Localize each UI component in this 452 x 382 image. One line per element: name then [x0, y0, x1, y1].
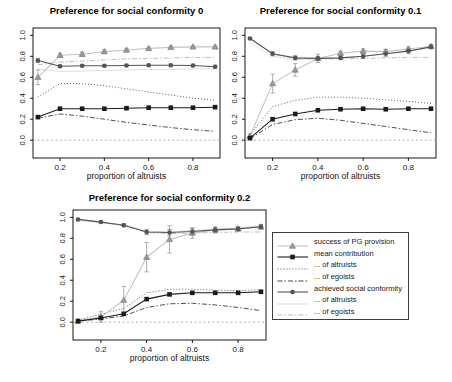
square-marker-icon: [276, 248, 310, 258]
svg-text:0.4: 0.4: [59, 275, 68, 285]
svg-text:0.0: 0.0: [231, 135, 240, 145]
legend-item-achieved-social-conformity: achieved social conformity: [276, 282, 406, 294]
gray-dashdot-line-icon: [276, 306, 310, 316]
svg-text:0.4: 0.4: [231, 93, 240, 103]
legend-label: success of PG provision: [314, 237, 394, 246]
legend-label: ... of altruists: [314, 260, 357, 269]
svg-text:0.8: 0.8: [19, 51, 28, 61]
legend-item-success-of-pg-provision: success of PG provision: [276, 236, 406, 248]
x-axis-label-conformity-0: proportion of altruists: [33, 171, 220, 181]
svg-text:1.0: 1.0: [59, 212, 68, 222]
chart-canvas-conformity-0: 0.20.40.60.80.00.20.40.60.81.0: [0, 18, 228, 186]
x-axis-label-conformity-0-1: proportion of altruists: [245, 171, 436, 181]
svg-text:1.0: 1.0: [231, 30, 240, 40]
chart-canvas-conformity-0-1: 0.20.40.60.80.00.20.40.60.81.0: [222, 18, 452, 186]
chart-canvas-conformity-0-2: 0.20.40.60.80.00.20.40.60.81.0: [40, 200, 274, 368]
svg-text:1.0: 1.0: [19, 30, 28, 40]
legend-label: ... of egoists: [314, 307, 354, 316]
legend-item-contribution-altruists: ... of altruists: [276, 259, 406, 271]
legend-item-contribution-egoists: ... of egoists: [276, 271, 406, 283]
svg-text:0.4: 0.4: [19, 93, 28, 103]
chart-title-conformity-0: Preference for social conformity 0: [33, 5, 220, 17]
circle-marker-icon: [276, 283, 310, 293]
figure-social-conformity: Preference for social conformity 0 0.20.…: [0, 0, 452, 382]
svg-text:0.8: 0.8: [231, 51, 240, 61]
legend-label: ... of egoists: [314, 272, 354, 281]
svg-text:0.8: 0.8: [59, 233, 68, 243]
legend-item-conformity-altruists: ... of altruists: [276, 294, 406, 306]
triangle-marker-icon: [276, 237, 310, 247]
svg-text:0.6: 0.6: [59, 254, 68, 264]
legend-label: achieved social conformity: [314, 284, 402, 293]
svg-text:0.0: 0.0: [59, 317, 68, 327]
chart-title-conformity-0-1: Preference for social conformity 0.1: [245, 5, 436, 17]
dotted-line-icon: [276, 260, 310, 270]
svg-text:0.6: 0.6: [19, 72, 28, 82]
legend-item-conformity-egoists: ... of egoists: [276, 306, 406, 318]
legend-label: ... of altruists: [314, 295, 357, 304]
legend-box: success of PG provision mean contributio…: [272, 232, 409, 320]
svg-text:0.0: 0.0: [19, 135, 28, 145]
legend-item-mean-contribution: mean contribution: [276, 248, 406, 260]
svg-text:0.6: 0.6: [231, 72, 240, 82]
svg-text:0.2: 0.2: [19, 114, 28, 124]
legend-label: mean contribution: [314, 249, 374, 258]
svg-text:0.2: 0.2: [59, 296, 68, 306]
dashdot-line-icon: [276, 272, 310, 282]
light-solid-line-icon: [276, 295, 310, 305]
x-axis-label-conformity-0-2: proportion of altruists: [73, 353, 266, 363]
svg-text:0.2: 0.2: [231, 114, 240, 124]
